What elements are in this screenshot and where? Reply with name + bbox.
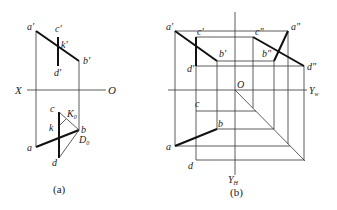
label-a-dprime: a" <box>291 21 301 32</box>
label-b-prime: b' <box>83 55 91 66</box>
label-c: c <box>50 103 55 114</box>
label-k-prime: k' <box>61 39 68 50</box>
label-b-prime: b' <box>219 48 227 59</box>
line-cd-side <box>253 37 304 66</box>
label-d-prime: d' <box>187 63 195 74</box>
label-a-prime: a' <box>166 21 174 32</box>
label-yw: Yw <box>309 85 319 97</box>
label-b-dprime: b" <box>262 48 272 59</box>
label-o-axis: O <box>108 84 116 96</box>
label-d: d <box>188 160 194 171</box>
caption-b: (b) <box>230 186 243 199</box>
label-yh: YH <box>228 174 239 186</box>
label-a: a <box>166 141 171 152</box>
label-origin: O <box>237 79 244 90</box>
label-b: b <box>218 118 223 129</box>
label-k: k <box>49 122 54 133</box>
label-d: d <box>52 157 58 168</box>
label-K0: K0 <box>66 108 77 120</box>
label-d-prime: d' <box>54 67 62 78</box>
label-d-dprime: d" <box>307 61 317 72</box>
miter-line <box>235 90 305 161</box>
label-c-prime: c' <box>55 23 62 34</box>
label-a-prime: a' <box>27 21 35 32</box>
label-c-prime: c' <box>197 26 204 37</box>
label-a: a <box>27 142 32 153</box>
label-D0: D0 <box>78 134 89 146</box>
projection-diagram: a' c' k' b' d' X O c K0 k b D0 a d (a) <box>0 0 337 210</box>
figure-a: a' c' k' b' d' X O c K0 k b D0 a d (a) <box>14 21 116 196</box>
label-c-dprime: c" <box>255 26 264 37</box>
figure-b: a' c' b' d' c" a" b" d" O Yw c b a d YH … <box>166 12 319 199</box>
line-k-k0 <box>59 119 66 126</box>
label-x-axis: X <box>14 84 23 96</box>
caption-a: (a) <box>53 183 66 196</box>
label-c: c <box>195 98 200 109</box>
